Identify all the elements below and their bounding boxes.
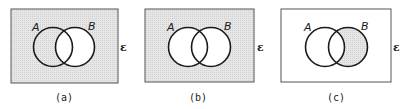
set-label-b: B xyxy=(224,20,232,33)
panel-a: A B ε (a) xyxy=(11,9,127,103)
panel-caption: (c) xyxy=(327,92,345,103)
set-label-a: A xyxy=(31,21,40,34)
set-label-b: B xyxy=(361,20,369,33)
panel-b: A B ε (b) xyxy=(145,9,264,103)
panel-caption: (b) xyxy=(189,92,207,103)
venn-diagram-figure: A B ε (a) A B ε (b) A B ε (c) xyxy=(0,0,408,109)
universal-set-symbol: ε xyxy=(120,41,127,54)
universal-set-symbol: ε xyxy=(393,41,400,54)
set-label-a: A xyxy=(166,21,175,34)
set-label-b: B xyxy=(88,20,96,33)
universal-set-symbol: ε xyxy=(257,41,264,54)
panel-caption: (a) xyxy=(55,92,73,103)
set-label-a: A xyxy=(303,21,312,34)
panel-c: A B ε (c) xyxy=(281,9,400,103)
